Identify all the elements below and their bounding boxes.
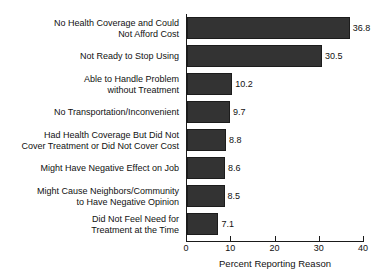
bar-value-label: 8.8 [229, 135, 242, 145]
bar-value-label: 36.8 [353, 23, 371, 33]
x-axis-tick-label: 10 [225, 243, 235, 253]
category-label: Might Have Negative Effect on Job [0, 163, 179, 174]
bar-chart: No Health Coverage and CouldNot Afford C… [0, 0, 384, 276]
x-axis-line [186, 241, 364, 242]
chart-row: Might Cause Neighbors/Communityto Have N… [0, 182, 384, 210]
category-label: No Health Coverage and CouldNot Afford C… [0, 18, 179, 39]
x-axis-tick [275, 236, 276, 241]
category-label: Able to Handle Problemwithout Treatment [0, 74, 179, 95]
x-axis-tick [230, 236, 231, 241]
x-axis-tick [186, 236, 187, 241]
x-axis-tick [319, 236, 320, 241]
x-axis-tick-label: 30 [314, 243, 324, 253]
chart-row: Not Ready to Stop Using30.5 [0, 42, 384, 70]
chart-row: Might Have Negative Effect on Job8.6 [0, 154, 384, 182]
x-axis-tick [363, 236, 364, 241]
bar [187, 101, 230, 123]
x-axis-title: Percent Reporting Reason [186, 258, 364, 269]
bar-value-label: 9.7 [233, 107, 246, 117]
category-label: Might Cause Neighbors/Communityto Have N… [0, 186, 179, 207]
bar [187, 17, 350, 39]
category-label: Did Not Feel Need forTreatment at the Ti… [0, 214, 179, 235]
chart-row: Did Not Feel Need forTreatment at the Ti… [0, 210, 384, 238]
y-axis-line [186, 14, 187, 242]
bar [187, 185, 225, 207]
bar [187, 73, 232, 95]
x-axis-tick-label: 20 [269, 243, 279, 253]
chart-row: No Health Coverage and CouldNot Afford C… [0, 14, 384, 42]
x-axis-tick-label: 40 [358, 243, 368, 253]
bar-value-label: 30.5 [325, 51, 343, 61]
chart-row: No Transportation/Inconvenient9.7 [0, 98, 384, 126]
x-axis-tick-label: 0 [183, 243, 188, 253]
bar [187, 129, 226, 151]
bar-value-label: 8.5 [228, 191, 241, 201]
bar-value-label: 8.6 [228, 163, 241, 173]
bar [187, 157, 225, 179]
chart-row: Able to Handle Problemwithout Treatment1… [0, 70, 384, 98]
bar-value-label: 7.1 [221, 219, 234, 229]
bar [187, 45, 322, 67]
category-label: Had Health Coverage But Did NotCover Tre… [0, 130, 179, 151]
category-label: No Transportation/Inconvenient [0, 107, 179, 118]
bar-value-label: 10.2 [235, 79, 253, 89]
category-label: Not Ready to Stop Using [0, 51, 179, 62]
bar [187, 213, 218, 235]
chart-row: Had Health Coverage But Did NotCover Tre… [0, 126, 384, 154]
